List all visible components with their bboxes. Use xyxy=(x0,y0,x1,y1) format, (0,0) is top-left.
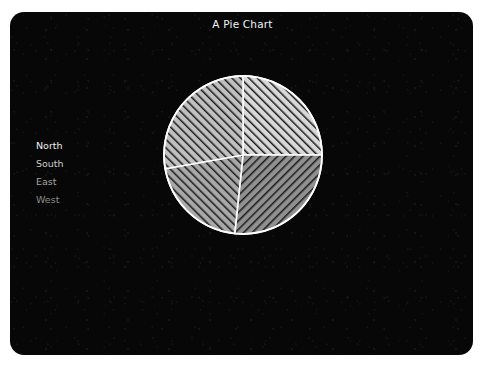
legend-item-north[interactable]: North xyxy=(36,137,64,155)
pie-chart xyxy=(0,0,485,372)
pie-slice-north[interactable] xyxy=(243,76,322,155)
pie-slice-group xyxy=(164,76,322,234)
pie-slice-west[interactable] xyxy=(164,76,243,169)
legend-label-west: West xyxy=(36,194,59,205)
legend-item-west[interactable]: West xyxy=(36,191,64,209)
legend: North South East West xyxy=(36,137,64,209)
legend-label-north: North xyxy=(36,140,63,151)
legend-item-east[interactable]: East xyxy=(36,173,64,191)
legend-label-east: East xyxy=(36,176,57,187)
pie-slice-south[interactable] xyxy=(235,155,322,234)
legend-label-south: South xyxy=(36,158,64,169)
screenshot-root: A Pie Chart North South East West xyxy=(0,0,485,372)
legend-item-south[interactable]: South xyxy=(36,155,64,173)
